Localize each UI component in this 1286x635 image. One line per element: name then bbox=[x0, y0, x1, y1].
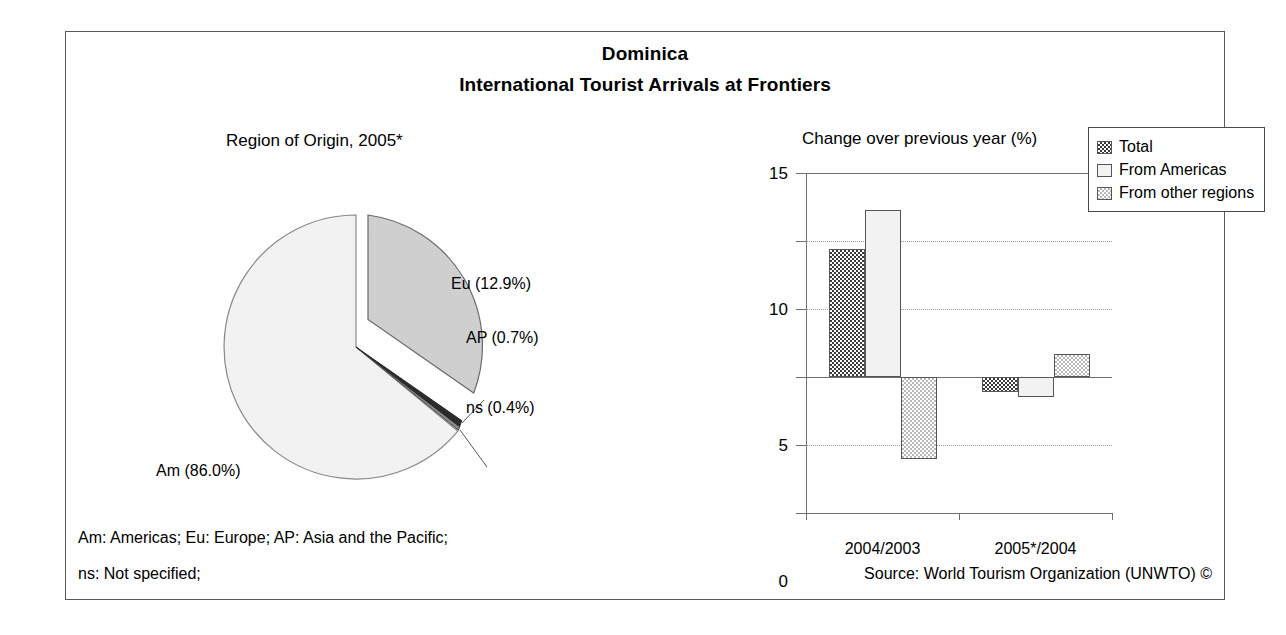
legend-swatch-from-other-regions bbox=[1097, 187, 1112, 200]
y-tick-neg5: -5 bbox=[796, 445, 806, 446]
y-tick-label-5: 5 bbox=[779, 436, 788, 456]
y-tick-label-15: 15 bbox=[769, 164, 788, 184]
y-tick-neg10: -10 bbox=[796, 513, 806, 514]
legend-item-from-other-regions: From other regions bbox=[1097, 184, 1254, 202]
y-tick-label-10: 10 bbox=[769, 300, 788, 320]
pie-label-ap: AP (0.7%) bbox=[466, 329, 539, 347]
x-tick-label-1: 2005*/2004 bbox=[995, 540, 1077, 558]
legend-item-from-americas: From Americas bbox=[1097, 161, 1254, 179]
x-tick-0 bbox=[806, 513, 807, 520]
bar-from-americas-20042003 bbox=[865, 210, 901, 377]
bar-chart-caption: Change over previous year (%) bbox=[802, 129, 1037, 149]
x-tick-mid bbox=[959, 513, 960, 520]
bar-from-americas-20052004 bbox=[1018, 377, 1054, 397]
pie-chart-caption: Region of Origin, 2005* bbox=[226, 131, 403, 151]
y-tick-label-0: 0 bbox=[779, 572, 788, 592]
y-axis-line bbox=[806, 173, 807, 513]
gridline-10 bbox=[806, 241, 1112, 242]
legend-label-total: Total bbox=[1119, 138, 1153, 156]
footnote-abbreviations-line1: Am: Americas; Eu: Europe; AP: Asia and t… bbox=[78, 529, 448, 547]
y-tick-5: 5 bbox=[796, 309, 806, 310]
source-note: Source: World Tourism Organization (UNWT… bbox=[864, 565, 1212, 583]
legend-label-from-americas: From Americas bbox=[1119, 161, 1227, 179]
bar-from-other-regions-20052004 bbox=[1054, 354, 1090, 377]
x-tick-label-0: 2004/2003 bbox=[845, 540, 921, 558]
pie-label-eu: Eu (12.9%) bbox=[451, 275, 531, 293]
bar-chart-panel: Change over previous year (%) 151050-5-1… bbox=[686, 107, 1226, 577]
gridline-15 bbox=[806, 173, 1112, 174]
y-tick-15: 15 bbox=[796, 173, 806, 174]
leader-line-ns bbox=[460, 430, 487, 467]
bar-total-20042003 bbox=[829, 249, 865, 377]
bar-chart-plot-area: 151050-5-10 2004/20032005*/2004 bbox=[806, 173, 1112, 513]
page-subtitle: International Tourist Arrivals at Fronti… bbox=[66, 74, 1224, 96]
pie-label-am: Am (86.0%) bbox=[156, 462, 240, 480]
bar-total-20052004 bbox=[982, 377, 1018, 392]
gridline-neg5 bbox=[806, 445, 1112, 446]
pie-chart-panel: Region of Origin, 2005* bbox=[66, 107, 626, 527]
legend-item-total: Total bbox=[1097, 138, 1254, 156]
pie-slice-eu bbox=[368, 215, 482, 393]
pie-label-ns: ns (0.4%) bbox=[466, 399, 534, 417]
bar-from-other-regions-20042003 bbox=[901, 377, 937, 459]
legend-label-from-other-regions: From other regions bbox=[1119, 184, 1254, 202]
legend-swatch-total bbox=[1097, 141, 1112, 154]
legend-swatch-from-americas bbox=[1097, 164, 1112, 177]
chart-legend: Total From Americas From other regions bbox=[1088, 127, 1265, 212]
gridline-0 bbox=[806, 377, 1112, 378]
x-tick-end bbox=[1112, 513, 1113, 520]
y-tick-0: 0 bbox=[796, 377, 806, 378]
y-tick-10: 10 bbox=[796, 241, 806, 242]
chart-frame: Dominica International Tourist Arrivals … bbox=[65, 31, 1225, 600]
chart-page: Dominica International Tourist Arrivals … bbox=[0, 0, 1286, 635]
page-title: Dominica bbox=[66, 43, 1224, 65]
footnote-abbreviations-line2: ns: Not specified; bbox=[78, 565, 201, 583]
